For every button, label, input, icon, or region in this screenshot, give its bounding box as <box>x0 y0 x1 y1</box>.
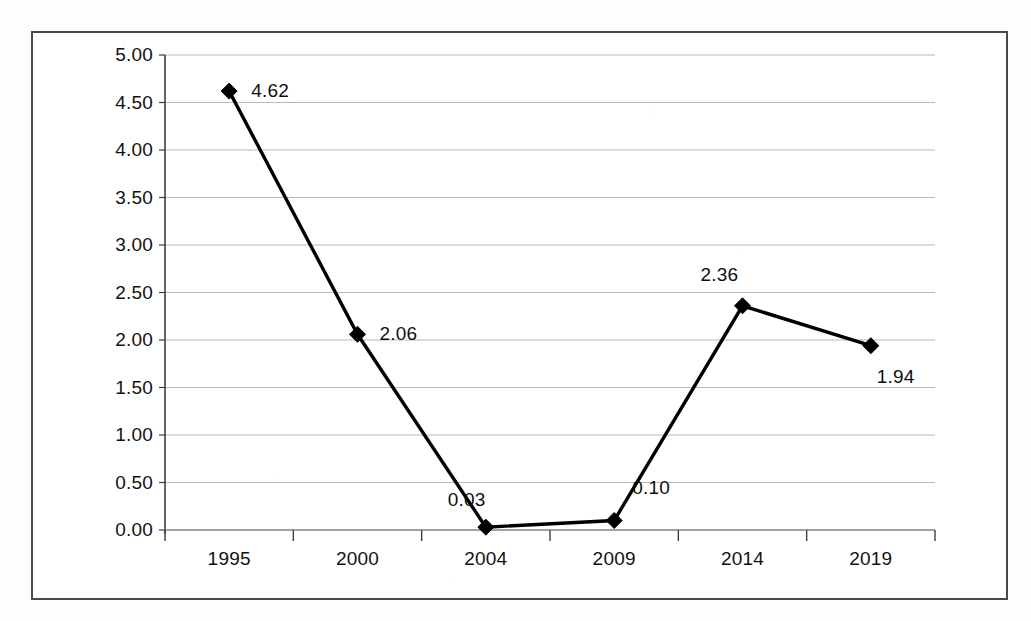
data-point-label: 0.03 <box>448 489 486 511</box>
x-axis-tick-label: 2014 <box>678 548 808 570</box>
data-point-label: 2.36 <box>701 264 739 286</box>
x-axis-tick-label: 2019 <box>806 548 936 570</box>
data-point-label: 1.94 <box>877 366 915 388</box>
y-axis-tick-label: 5.00 <box>79 44 153 66</box>
y-axis-tick-label: 0.00 <box>79 519 153 541</box>
data-point-label: 4.62 <box>251 80 289 102</box>
x-axis-tick-label: 2004 <box>421 548 551 570</box>
y-axis-tick-label: 4.00 <box>79 139 153 161</box>
y-axis-tick-label: 3.00 <box>79 234 153 256</box>
y-axis-tick-label: 4.50 <box>79 92 153 114</box>
y-axis-tick-label: 0.50 <box>79 472 153 494</box>
chart-outer-border <box>31 31 1008 600</box>
x-axis-tick-label: 2009 <box>549 548 679 570</box>
y-axis-tick-label: 1.00 <box>79 424 153 446</box>
x-axis-tick-label: 2000 <box>293 548 423 570</box>
y-axis-tick-label: 1.50 <box>79 377 153 399</box>
y-axis-tick-label: 2.00 <box>79 329 153 351</box>
data-point-label: 2.06 <box>380 323 418 345</box>
y-axis-tick-label: 2.50 <box>79 282 153 304</box>
data-point-label: 0.10 <box>632 477 670 499</box>
x-axis-tick-label: 1995 <box>164 548 294 570</box>
y-axis-tick-label: 3.50 <box>79 187 153 209</box>
